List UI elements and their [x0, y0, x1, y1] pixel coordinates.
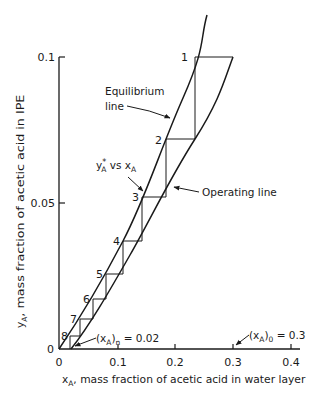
- y-tick-label-0: 0: [47, 343, 54, 356]
- stage-label-7: 7: [70, 313, 77, 326]
- stage-label-1: 1: [181, 51, 188, 64]
- equilibrium-label-line: line: [105, 100, 124, 112]
- x-tick-label-0.1: 0.1: [109, 356, 127, 369]
- stage-label-6: 6: [83, 293, 90, 306]
- x-axis-title: xA, mass fraction of acetic acid in wate…: [62, 373, 306, 388]
- stage-label-4: 4: [113, 235, 120, 248]
- annotation-x0: (xA)0 = 0.3: [236, 329, 306, 345]
- arrow-icon: [236, 335, 249, 345]
- equilibrium-label: Equilibrium: [105, 85, 165, 97]
- x-tick-label-0.3: 0.3: [224, 356, 242, 369]
- operating-line: [71, 57, 233, 349]
- x-tick-label-0: 0: [56, 356, 63, 369]
- ystar-vs-xa-label: y*A vs xA: [96, 158, 137, 174]
- arrow-icon: [127, 106, 170, 118]
- stage-label-5: 5: [96, 268, 103, 281]
- arrow-icon: [128, 177, 143, 191]
- stage-staircase: [70, 57, 233, 349]
- y-tick-label-0.05: 0.05: [31, 197, 56, 210]
- annotation-xn: (xA)n = 0.02: [75, 332, 159, 347]
- arrow-icon: [174, 187, 199, 192]
- xa-n-label: (xA)n = 0.02: [96, 332, 159, 347]
- y-tick-label-0.1: 0.1: [38, 51, 56, 64]
- mccabe-thiele-diagram: 0.1 0.05 0 0 0.1 0.2 0.3 0.4 xA, mass fr…: [0, 0, 320, 399]
- xa-0-label: (xA)0 = 0.3: [249, 329, 306, 344]
- stage-label-2: 2: [155, 134, 162, 147]
- annotation-operating: Operating line: [174, 186, 277, 198]
- annotation-ystar: y*A vs xA: [96, 158, 143, 191]
- x-tick-label-0.4: 0.4: [282, 356, 300, 369]
- x-tick-label-0.2: 0.2: [166, 356, 184, 369]
- operating-line-label: Operating line: [202, 186, 277, 198]
- stage-label-3: 3: [132, 191, 139, 204]
- y-axis-title: yA, mass fraction of acetic acid in IPE: [14, 95, 29, 328]
- annotation-equilibrium: Equilibrium line: [105, 85, 170, 118]
- stage-label-8: 8: [61, 330, 68, 343]
